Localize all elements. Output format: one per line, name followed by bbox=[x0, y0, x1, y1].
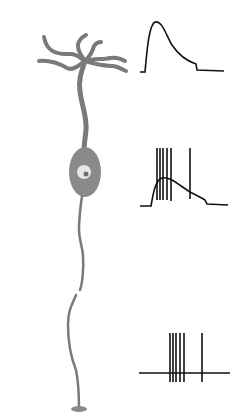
nucleus bbox=[77, 165, 91, 179]
trace-dendritic-potential bbox=[140, 22, 224, 72]
axon-terminal bbox=[71, 406, 87, 412]
trace-soma-potential bbox=[140, 148, 228, 206]
nucleolus bbox=[84, 172, 89, 177]
axon bbox=[68, 196, 83, 408]
neuron-diagram bbox=[0, 0, 251, 416]
apical-dendrite bbox=[79, 61, 86, 150]
trace-axon-spikes bbox=[139, 333, 230, 382]
